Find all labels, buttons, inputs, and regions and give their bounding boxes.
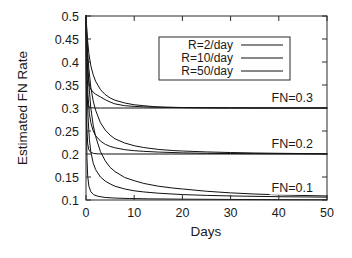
fn-annotation-label: FN=0.2 [272,137,313,151]
y-tick-label: 0.5 [62,10,79,24]
y-tick-label: 0.2 [62,148,79,162]
line-chart: 01020304050 0.10.150.20.250.30.350.40.45… [0,0,352,258]
x-tick-label: 50 [320,206,334,220]
legend-label: R=2/day [188,38,233,52]
x-tick-labels: 01020304050 [83,206,334,220]
x-axis-title: Days [191,224,222,239]
fn-annotation-label: FN=0.1 [272,181,313,195]
x-tick-label: 20 [175,206,189,220]
fn-annotations: FN=0.3FN=0.2FN=0.1 [270,91,320,194]
y-tick-label: 0.15 [55,171,79,185]
chart-figure: 01020304050 0.10.150.20.250.30.350.40.45… [0,0,352,258]
y-tick-label: 0.45 [55,33,79,47]
y-tick-label: 0.3 [62,102,79,116]
x-tick-label: 10 [127,206,141,220]
x-tick-label: 30 [224,206,238,220]
legend-label: R=50/day [181,64,233,78]
x-tick-label: 0 [83,206,90,220]
y-tick-label: 0.4 [62,56,79,70]
fn-annotation-label: FN=0.3 [272,91,313,105]
y-tick-labels: 0.10.150.20.250.30.350.40.450.5 [55,10,79,208]
legend-label: R=10/day [181,51,233,65]
y-tick-label: 0.1 [62,194,79,208]
y-tick-label: 0.25 [55,125,79,139]
chart-legend: R=2/dayR=10/dayR=50/day [159,37,290,80]
x-tick-label: 40 [272,206,286,220]
y-axis-title: Estimated FN Rate [15,51,30,165]
y-tick-label: 0.35 [55,79,79,93]
